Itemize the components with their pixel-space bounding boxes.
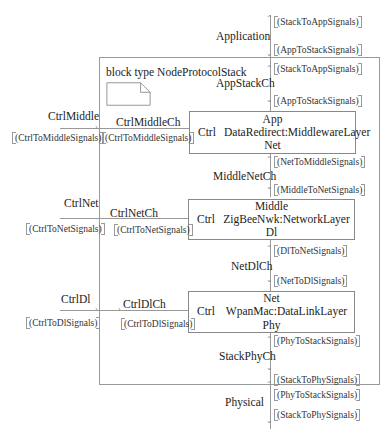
block-name: WpanMac:DataLinkLayer [223,305,350,317]
signal-list: (PhyToStackSignals) [274,336,360,346]
arrow-up-icon: ⌃ [266,380,273,389]
channel-netdl-label: NetDlCh [231,260,273,272]
gate-middle-label: Middle [189,200,354,212]
gate-physical-label: Physical [225,396,264,408]
ctrldl-line [60,310,188,311]
signal-list: (CtrlToMiddleSignals) [102,133,194,143]
channel-ctrlmiddle-label: CtrlMiddleCh [116,116,181,128]
note-icon [106,81,151,107]
channel-stackphy-label: StackPhyCh [219,350,276,362]
block-name: ZigBeeNwk:NetworkLayer [223,213,350,225]
gate-application-label: Application [216,30,270,42]
signal-list: (CtrlToNetSignals) [26,224,105,234]
ctrlmiddle-line [60,128,189,129]
arrow-down-icon: ⌄ [266,182,273,191]
signal-list: (PhyToStackSignals) [274,390,360,400]
signal-list: (StackToAppSignals) [274,17,362,27]
signal-list: (DlToNetSignals) [274,246,347,256]
channel-ctrldl-label: CtrlDlCh [123,298,166,310]
block-network-layer[interactable]: Middle Ctrl ZigBeeNwk:NetworkLayer Dl [188,199,355,240]
gate-ctrldl-label: CtrlDl [61,293,90,305]
channel-middlenet-label: MiddleNetCh [213,170,276,182]
arrow-right-icon: › [118,304,121,313]
arrow-down-icon: ⌄ [266,49,273,58]
signal-list: (StackToPhySignals) [274,410,360,420]
signal-list: (CtrlToDlSignals) [121,319,195,329]
gate-ctrl-label: Ctrl [198,126,216,138]
gate-ctrlnet-label: CtrlNet [64,197,99,209]
gate-dl-label: Dl [189,226,354,238]
block-name: DataRedirect:MiddlewareLayer [224,126,351,138]
signal-list: (AppToStackSignals) [274,45,362,55]
channel-appstack-label: AppStackCh [216,77,275,89]
gate-net-label: Net [190,139,355,151]
arrow-down-icon: ⌄ [266,275,273,284]
block-datalink-layer[interactable]: Net Ctrl WpanMac:DataLinkLayer Phy [188,291,355,333]
arrow-down-icon: ⌄ [266,95,273,104]
signal-list: (AppToStackSignals) [274,96,362,106]
gate-net-label: Net [189,292,354,304]
arrow-up-icon: ⌃ [266,244,273,253]
signal-list: (MiddleToNetSignals) [274,185,365,195]
arrow-up-icon: ⌃ [266,335,273,344]
arrow-down-icon: ⌄ [266,363,273,372]
arrow-right-icon: › [95,304,98,313]
arrow-up-icon: ⌃ [266,64,273,73]
gate-phy-label: Phy [189,319,354,331]
gate-ctrl-label: Ctrl [197,305,215,317]
channel-ctrlnet-label: CtrlNetCh [110,207,158,219]
arrow-up-icon: ⌃ [266,14,273,23]
arrow-down-icon: ⌄ [266,416,273,425]
signal-list: (NetToDlSignals) [274,276,347,286]
arrow-up-icon: ⌃ [266,155,273,164]
signal-list: (CtrlToDlSignals) [26,318,100,328]
signal-list: (StackToPhySignals) [274,375,360,385]
block-middleware-layer[interactable]: App Ctrl DataRedirect:MiddlewareLayer Ne… [189,111,356,154]
signal-list: (NetToMiddleSignals) [274,157,365,167]
signal-list: (CtrlToNetSignals) [114,225,193,235]
gate-app-label: App [190,113,355,125]
signal-list: (StackToAppSignals) [274,64,362,74]
gate-ctrlmiddle-label: CtrlMiddle [48,110,99,122]
arrow-right-icon: › [95,122,98,131]
gate-ctrl-label: Ctrl [197,213,215,225]
signal-list: (CtrlToMiddleSignals) [12,133,104,143]
